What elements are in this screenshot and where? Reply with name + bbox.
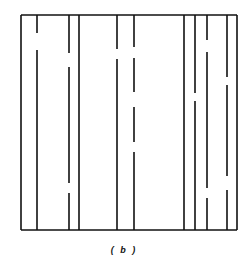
line-diagram bbox=[0, 0, 248, 267]
figure-caption: ( b ) bbox=[0, 245, 248, 255]
figure-b: ( b ) bbox=[0, 0, 248, 267]
